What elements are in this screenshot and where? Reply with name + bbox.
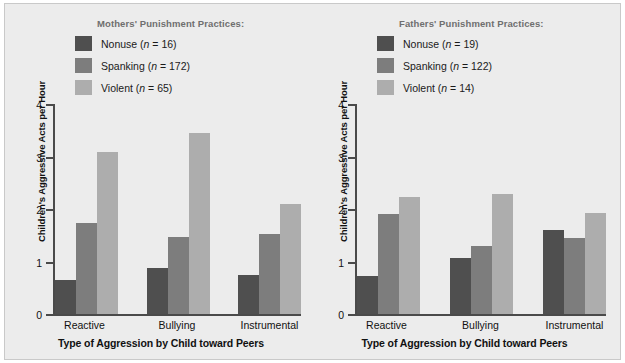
legend-title: Mothers' Punishment Practices:	[97, 18, 311, 29]
bar[interactable]	[55, 280, 76, 314]
bar[interactable]	[168, 237, 189, 314]
bar[interactable]	[399, 197, 420, 314]
y-tick-mark	[348, 314, 355, 316]
axes-fathers: 01234	[355, 104, 606, 316]
legend-swatch-nonuse-icon	[377, 36, 394, 51]
y-tick-label: 3	[338, 152, 344, 164]
figure-root: Mothers' Punishment Practices: Nonuse (n…	[0, 0, 625, 363]
bar-groups	[357, 104, 606, 314]
bar-groups	[55, 104, 301, 314]
legend-mothers: Mothers' Punishment Practices: Nonuse (n…	[75, 18, 311, 102]
bar[interactable]	[543, 230, 564, 314]
legend-item: Spanking (n = 122)	[377, 58, 613, 73]
figure-frame: Mothers' Punishment Practices: Nonuse (n…	[4, 3, 621, 360]
y-tick-label: 1	[36, 257, 42, 269]
y-tick-label: 1	[338, 257, 344, 269]
y-tick-label: 0	[36, 309, 42, 321]
x-tick-label: Instrumental	[543, 319, 606, 331]
legend-item: Nonuse (n = 16)	[75, 36, 311, 51]
x-tick-label: Instrumental	[238, 319, 301, 331]
legend-title: Fathers' Punishment Practices:	[399, 18, 613, 29]
legend-swatch-spanking-icon	[377, 58, 394, 73]
bar[interactable]	[378, 214, 399, 314]
legend-swatch-violent-icon	[75, 80, 92, 95]
y-tick-label: 3	[36, 152, 42, 164]
legend-item: Spanking (n = 172)	[75, 58, 311, 73]
y-tick-mark	[46, 209, 53, 211]
x-axis-line	[355, 314, 606, 316]
y-tick-label: 0	[338, 309, 344, 321]
chart-panel-mothers: Mothers' Punishment Practices: Nonuse (n…	[11, 4, 311, 359]
x-tick-label: Reactive	[53, 319, 116, 331]
y-tick-mark	[46, 104, 53, 106]
legend-item-label: Violent (n = 65)	[101, 82, 172, 94]
bar-group	[543, 104, 606, 314]
legend-item-label: Nonuse (n = 19)	[403, 38, 479, 50]
legend-item-label: Spanking (n = 172)	[101, 60, 190, 72]
bar-group	[238, 104, 301, 314]
x-tick-labels: ReactiveBullyingInstrumental	[355, 319, 606, 331]
bar[interactable]	[259, 234, 280, 314]
y-tick-label: 4	[338, 99, 344, 111]
legend-item-label: Spanking (n = 122)	[403, 60, 492, 72]
bar[interactable]	[238, 275, 259, 314]
x-tick-label: Bullying	[449, 319, 512, 331]
legend-item: Violent (n = 65)	[75, 80, 311, 95]
y-tick-label: 4	[36, 99, 42, 111]
y-tick-label: 2	[338, 204, 344, 216]
y-tick-mark	[348, 104, 355, 106]
bar[interactable]	[585, 213, 606, 314]
plot-area-mothers: Children's Aggressive Acts per Hour 0123…	[11, 104, 311, 319]
bar[interactable]	[471, 246, 492, 314]
legend-swatch-violent-icon	[377, 80, 394, 95]
legend-fathers: Fathers' Punishment Practices: Nonuse (n…	[377, 18, 613, 102]
x-tick-labels: ReactiveBullyingInstrumental	[53, 319, 301, 331]
chart-panel-fathers: Fathers' Punishment Practices: Nonuse (n…	[313, 4, 616, 359]
x-tick-label: Reactive	[355, 319, 418, 331]
x-axis-line	[53, 314, 301, 316]
legend-item-label: Violent (n = 14)	[403, 82, 474, 94]
y-tick-label: 2	[36, 204, 42, 216]
bar[interactable]	[450, 258, 471, 314]
bar-group	[450, 104, 513, 314]
legend-item: Nonuse (n = 19)	[377, 36, 613, 51]
x-axis-label: Type of Aggression by Child toward Peers	[11, 337, 311, 349]
legend-swatch-nonuse-icon	[75, 36, 92, 51]
bar[interactable]	[76, 223, 97, 314]
plot-area-fathers: Children's Aggressive Acts per Hour 0123…	[313, 104, 616, 319]
y-tick-mark	[46, 314, 53, 316]
bar[interactable]	[564, 238, 585, 314]
bar-group	[55, 104, 118, 314]
x-tick-label: Bullying	[146, 319, 209, 331]
bar[interactable]	[147, 268, 168, 314]
bar[interactable]	[97, 152, 118, 314]
legend-swatch-spanking-icon	[75, 58, 92, 73]
x-axis-label: Type of Aggression by Child toward Peers	[313, 337, 616, 349]
bar[interactable]	[280, 204, 301, 314]
y-tick-mark	[348, 209, 355, 211]
y-tick-mark	[46, 157, 53, 159]
bar-group	[147, 104, 210, 314]
bar[interactable]	[357, 276, 378, 314]
bar-group	[357, 104, 420, 314]
y-tick-mark	[348, 262, 355, 264]
legend-item: Violent (n = 14)	[377, 80, 613, 95]
axes-mothers: 01234	[53, 104, 301, 316]
y-tick-mark	[46, 262, 53, 264]
bar[interactable]	[492, 194, 513, 314]
legend-item-label: Nonuse (n = 16)	[101, 38, 177, 50]
bar[interactable]	[189, 133, 210, 314]
y-tick-mark	[348, 157, 355, 159]
